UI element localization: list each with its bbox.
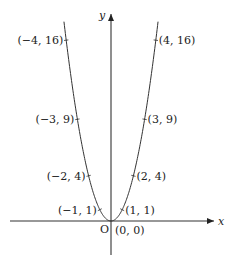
parabola-plot: x y O (−4, 16)(4, 16)(−3, 9)(3, 9)(−2, 4…	[0, 0, 232, 265]
point-label: (1, 1)	[125, 204, 155, 217]
origin-label: O	[100, 223, 109, 236]
point-label: (4, 16)	[159, 34, 196, 47]
point-label: (−3, 9)	[36, 113, 75, 126]
point-label: (3, 9)	[148, 113, 178, 126]
parabola-figure: x y O (−4, 16)(4, 16)(−3, 9)(3, 9)(−2, 4…	[0, 0, 232, 265]
point-labels: (−4, 16)(4, 16)(−3, 9)(3, 9)(−2, 4)(2, 4…	[17, 34, 195, 237]
x-axis-label: x	[218, 215, 225, 228]
point-label: (−2, 4)	[47, 170, 86, 183]
point-label: (2, 4)	[136, 170, 166, 183]
y-axis-label: y	[98, 9, 106, 22]
point-label: (0, 0)	[115, 224, 145, 237]
point-label: (−1, 1)	[58, 204, 97, 217]
point-label: (−4, 16)	[17, 34, 63, 47]
